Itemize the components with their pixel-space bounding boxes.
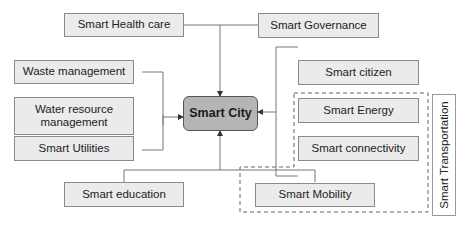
node-smart-energy: Smart Energy [298, 98, 419, 123]
node-water-resource-management: Water resource management [14, 97, 134, 135]
node-waste-management: Waste management [14, 60, 134, 84]
node-smart-education: Smart education [64, 182, 184, 207]
node-smart-mobility: Smart Mobility [255, 183, 375, 207]
node-smart-citizen: Smart citizen [298, 60, 419, 85]
node-smart-health-care: Smart Health care [64, 13, 184, 37]
node-smart-connectivity: Smart connectivity [298, 136, 419, 161]
node-smart-utilities: Smart Utilities [14, 136, 134, 161]
group-label-text: Smart Transportation [438, 101, 450, 208]
group-label-smart-transportation: Smart Transportation [432, 94, 456, 216]
node-smart-city: Smart City [183, 96, 258, 131]
node-smart-governance: Smart Governance [258, 13, 379, 38]
